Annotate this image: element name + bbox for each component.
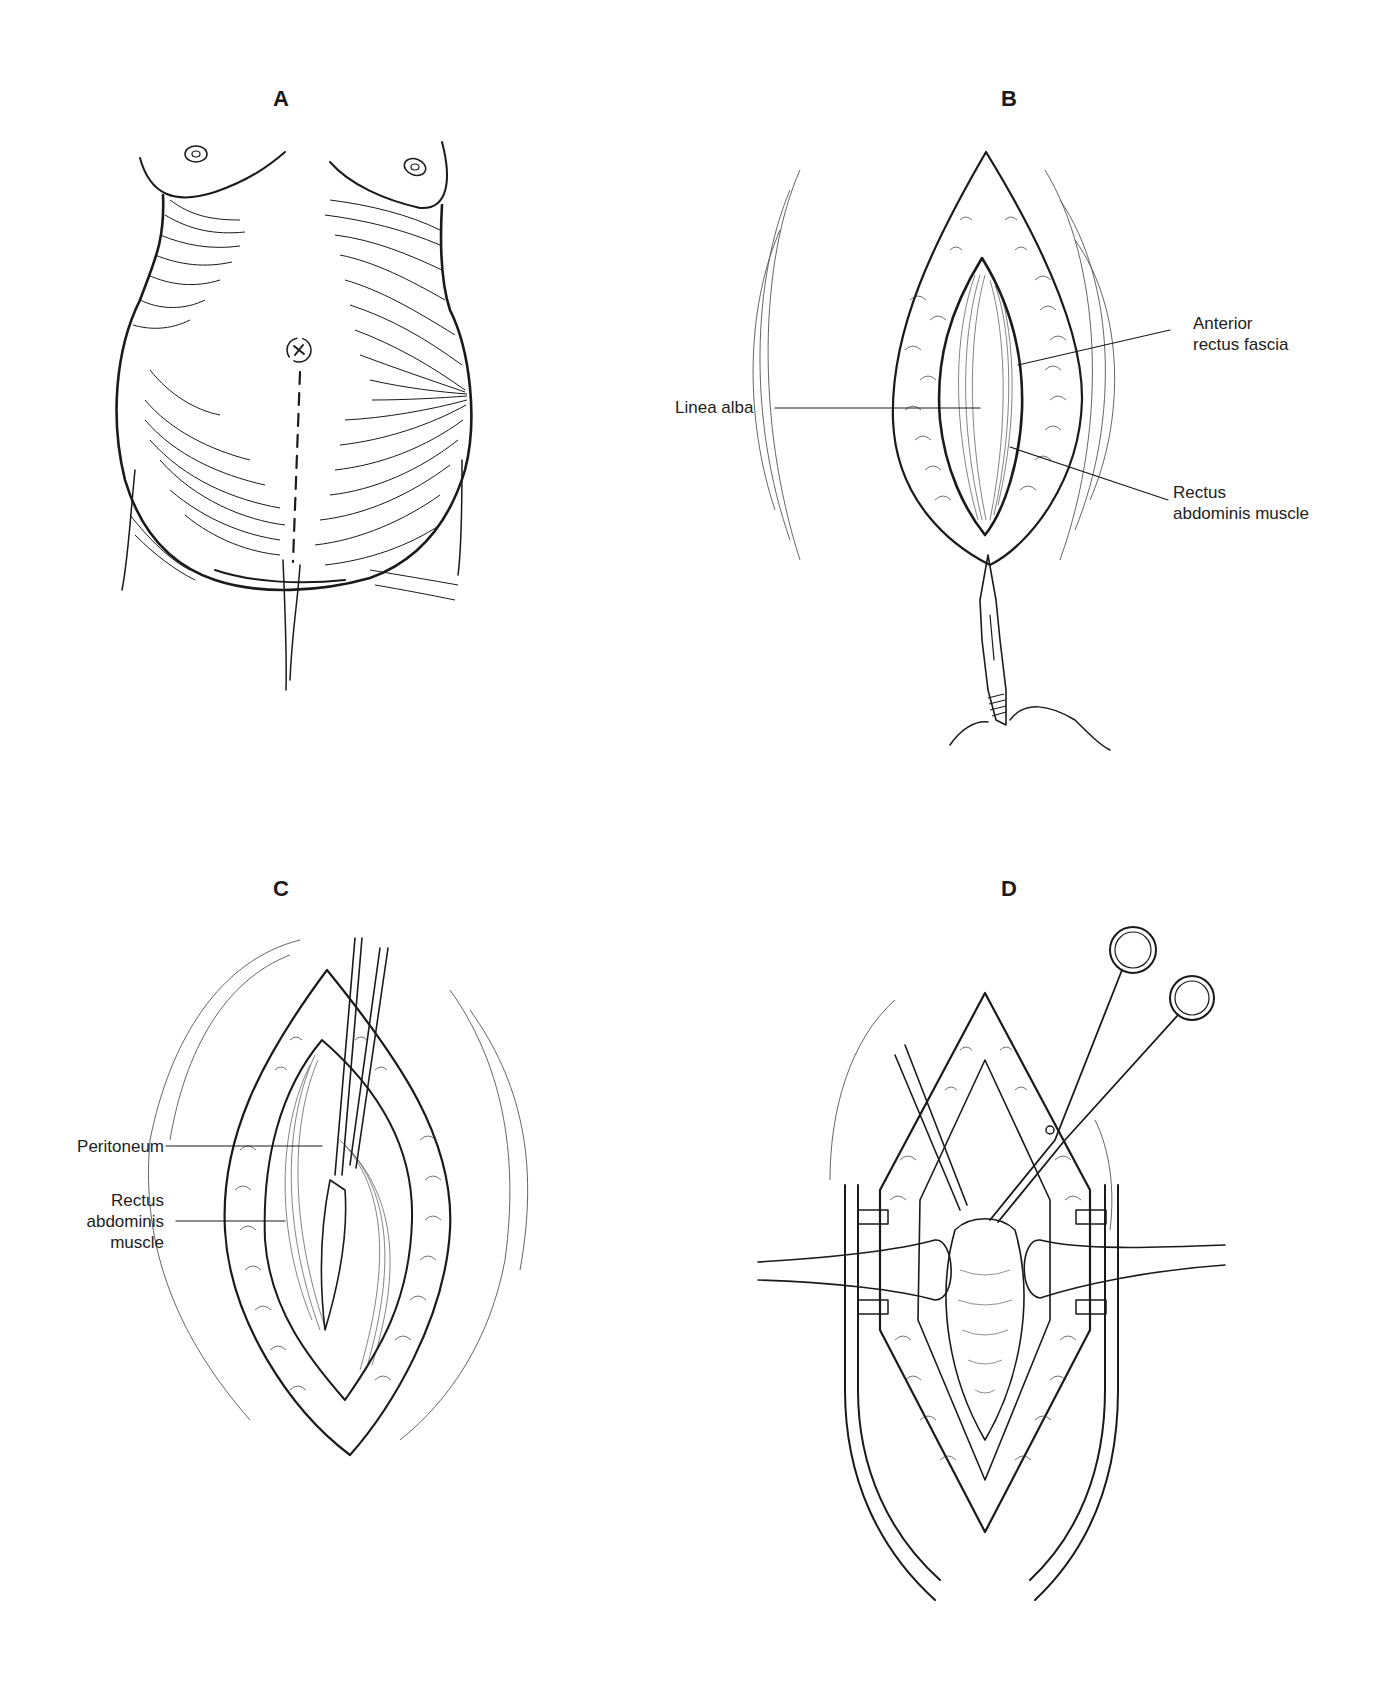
label-line: rectus fascia xyxy=(1193,334,1288,355)
panel-b-fascia-incision-illustration xyxy=(753,152,1170,750)
label-line: Rectus xyxy=(40,1190,164,1211)
label-line: muscle xyxy=(40,1232,164,1253)
label-line: abdominis xyxy=(40,1211,164,1232)
label-rectus-abdominis-muscle-c: Rectus abdominis muscle xyxy=(40,1190,164,1253)
label-anterior-rectus-fascia: Anterior rectus fascia xyxy=(1193,313,1288,355)
panel-c-peritoneum-illustration xyxy=(148,938,527,1455)
label-linea-alba: Linea alba xyxy=(675,397,753,418)
label-peritoneum: Peritoneum xyxy=(40,1136,164,1157)
label-line: Rectus xyxy=(1173,482,1309,503)
panel-a-abdomen-illustration xyxy=(117,142,472,690)
label-rectus-abdominis-muscle-b: Rectus abdominis muscle xyxy=(1173,482,1309,524)
panel-d-retractor-scissors-illustration xyxy=(758,927,1225,1600)
label-line: Anterior xyxy=(1193,313,1288,334)
label-line: abdominis muscle xyxy=(1173,503,1309,524)
figure-illustrations xyxy=(0,0,1384,1692)
